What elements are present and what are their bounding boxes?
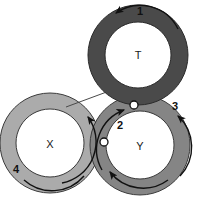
arc-number-3: 3 — [172, 100, 178, 112]
overlapping-rings-diagram: T Y X 1 2 3 4 — [0, 0, 202, 203]
ring-label-x: X — [46, 138, 54, 150]
node-marker-lower[interactable] — [100, 138, 108, 146]
node-marker-upper[interactable] — [130, 101, 138, 109]
arc-number-2: 2 — [117, 119, 123, 131]
arc-number-1: 1 — [137, 5, 143, 17]
arc-number-4: 4 — [13, 163, 20, 175]
diagram-canvas: T Y X 1 2 3 4 — [0, 0, 202, 203]
ring-label-t: T — [135, 49, 142, 61]
ring-label-y: Y — [136, 140, 144, 152]
